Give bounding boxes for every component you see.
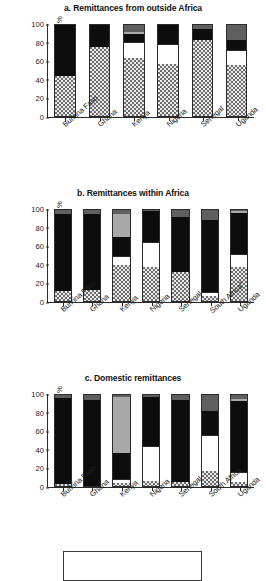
bar-segment-black <box>231 401 247 472</box>
bar-group <box>201 209 219 302</box>
bar-segment-white <box>124 42 143 57</box>
y-tick-80: 80 <box>29 223 48 232</box>
bar-segment-black <box>158 25 177 44</box>
y-tick-0: 0 <box>29 483 48 492</box>
bar-segment-black <box>55 214 71 291</box>
panel-b-x-labels: Burkina FasoGhanaKenyaNigeriaSenegalSout… <box>47 305 266 369</box>
y-tick-20: 20 <box>29 279 48 288</box>
y-tick-80: 80 <box>29 408 48 417</box>
bar-segment-white <box>231 254 247 268</box>
panel-a-bars <box>48 24 254 117</box>
y-tick-20: 20 <box>29 94 48 103</box>
bar-segment-black <box>143 211 159 242</box>
panel-c-x-labels: Burkina FasoGhanaKenyaNigeriaSenegalSout… <box>47 490 266 554</box>
bar-segment-light-gray <box>113 397 129 453</box>
y-tick-60: 60 <box>29 427 48 436</box>
legend-box <box>63 551 202 581</box>
bar-segment-dotted <box>124 58 143 116</box>
bar-segment-black <box>124 34 143 42</box>
bar-segment-black <box>143 397 159 446</box>
bar-segment-black <box>231 213 247 254</box>
stacked-bar[interactable] <box>157 24 178 117</box>
bar-segment-black <box>227 40 246 49</box>
bar-segment-black <box>193 29 212 41</box>
panel-b: b. Remittances within Africa use of chan… <box>0 185 266 371</box>
bar-segment-black <box>172 400 188 483</box>
y-tick-80: 80 <box>29 38 48 47</box>
stacked-bar[interactable] <box>226 24 247 117</box>
panel-b-title: b. Remittances within Africa <box>0 188 266 198</box>
bar-group <box>171 209 189 302</box>
bar-segment-white <box>113 256 129 265</box>
y-tick-100: 100 <box>29 20 48 29</box>
bar-segment-light-gray <box>113 214 129 238</box>
y-tick-100: 100 <box>29 390 48 399</box>
panel-c: c. Domestic remittances use of channel, … <box>0 370 266 556</box>
y-tick-100: 100 <box>29 205 48 214</box>
stacked-bar[interactable] <box>54 24 75 117</box>
bar-segment-dotted <box>113 265 129 301</box>
panel-a: a. Remittances from outside Africa use o… <box>0 0 266 186</box>
bar-group <box>201 394 219 487</box>
bar-segment-black <box>113 237 129 255</box>
stacked-bar[interactable] <box>142 394 160 487</box>
bar-segment-dotted <box>193 40 212 116</box>
bar-group <box>226 24 247 117</box>
panel-c-title: c. Domestic remittances <box>0 373 266 383</box>
bar-segment-black <box>55 398 71 484</box>
bar-segment-dark-gray <box>227 25 246 40</box>
bar-group <box>171 394 189 487</box>
bar-segment-dark-gray <box>124 25 143 32</box>
y-tick-40: 40 <box>29 260 48 269</box>
bar-group <box>54 209 72 302</box>
stacked-bar[interactable] <box>142 209 160 302</box>
bar-segment-dark-gray <box>202 395 218 411</box>
bar-segment-white <box>227 50 246 65</box>
y-tick-0: 0 <box>29 298 48 307</box>
bar-group <box>192 24 213 117</box>
bar-segment-dotted <box>172 272 188 301</box>
bar-segment-white <box>143 446 159 481</box>
y-tick-60: 60 <box>29 242 48 251</box>
bar-segment-black <box>202 220 218 292</box>
bar-segment-white <box>202 435 218 471</box>
y-tick-0: 0 <box>29 113 48 122</box>
bar-segment-dark-gray <box>202 210 218 220</box>
stacked-bar[interactable] <box>201 394 219 487</box>
bar-segment-black <box>113 453 129 478</box>
stacked-bar[interactable] <box>171 209 189 302</box>
bar-segment-dotted <box>158 64 177 116</box>
panel-a-x-labels: Burkina FasoGhanaKenyaNigeriaSenegalUgan… <box>47 120 266 184</box>
y-tick-40: 40 <box>29 75 48 84</box>
bar-group <box>157 24 178 117</box>
stacked-bar[interactable] <box>112 394 130 487</box>
bar-segment-black <box>202 411 218 435</box>
y-tick-40: 40 <box>29 445 48 454</box>
bar-segment-dotted <box>55 76 74 116</box>
bar-group <box>112 394 130 487</box>
bar-group <box>123 24 144 117</box>
bar-group <box>54 394 72 487</box>
bar-segment-dotted <box>227 65 246 116</box>
bar-segment-white <box>143 242 159 267</box>
stacked-bar[interactable] <box>54 209 72 302</box>
bar-group <box>142 394 160 487</box>
bar-group <box>54 24 75 117</box>
stacked-bar[interactable] <box>123 24 144 117</box>
stacked-bar[interactable] <box>201 209 219 302</box>
stacked-bar[interactable] <box>54 394 72 487</box>
bar-segment-white <box>158 44 177 64</box>
panel-a-title: a. Remittances from outside Africa <box>0 3 266 13</box>
panel-a-plot-area: use of channel, % 100 80 60 40 20 0 <box>47 24 254 118</box>
bar-segment-black <box>55 25 74 76</box>
stacked-bar[interactable] <box>112 209 130 302</box>
stacked-bar[interactable] <box>192 24 213 117</box>
bar-segment-dotted <box>143 267 159 301</box>
bar-segment-black <box>172 217 188 272</box>
bar-group <box>112 209 130 302</box>
bar-group <box>142 209 160 302</box>
y-tick-60: 60 <box>29 57 48 66</box>
stacked-bar[interactable] <box>171 394 189 487</box>
y-tick-20: 20 <box>29 464 48 473</box>
